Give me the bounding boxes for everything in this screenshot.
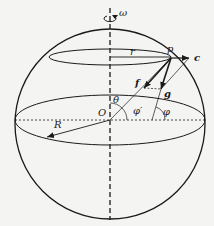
phi-label: φ <box>163 106 170 117</box>
r-label: r <box>130 46 136 57</box>
O-label: O <box>98 107 106 118</box>
theta-label: θ <box>113 94 119 105</box>
omega-label: ω <box>119 7 127 18</box>
f-label: f <box>134 77 141 88</box>
construction-f-g <box>144 88 161 89</box>
p-label: p <box>167 43 174 54</box>
g-line-extension <box>152 89 161 120</box>
R-label: R <box>53 119 62 130</box>
sphere-diagram: ω r p c f g θ φ′ φ O R <box>0 0 214 226</box>
rotation-arrow-icon <box>104 15 118 22</box>
phi-prime-arc <box>122 108 127 120</box>
c-label: c <box>194 52 200 63</box>
phi-prime-label: φ′ <box>133 105 143 116</box>
g-label: g <box>164 88 171 99</box>
